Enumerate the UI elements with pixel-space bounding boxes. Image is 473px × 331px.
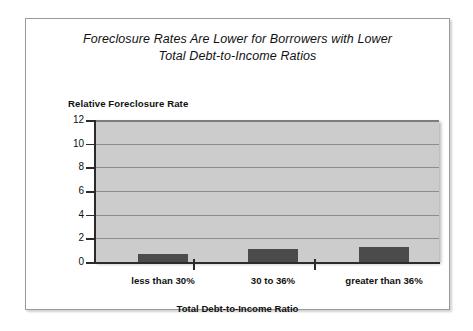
x-tick-divider-1 — [193, 259, 195, 270]
bar-30-to-36[interactable] — [248, 249, 298, 262]
y-tick-label-0: 0 — [62, 256, 84, 267]
x-category-label-less-than-30: less than 30% — [131, 275, 194, 286]
x-category-label-30-to-36: 30 to 36% — [251, 275, 295, 286]
y-tick-label-12: 12 — [62, 114, 84, 125]
x-tick-divider-2 — [314, 259, 316, 270]
y-tick-mark-12 — [86, 120, 95, 122]
y-tick-label-2: 2 — [62, 232, 84, 243]
y-tick-mark-4 — [86, 215, 95, 217]
x-category-label-greater-than-36: greater than 36% — [345, 275, 422, 286]
y-tick-label-6: 6 — [62, 185, 84, 196]
y-tick-label-4: 4 — [62, 209, 84, 220]
bar-less-than-30[interactable] — [138, 254, 188, 262]
chart-title-line-2: Total Debt-to-Income Ratios — [26, 48, 449, 65]
y-tick-label-8: 8 — [62, 161, 84, 172]
gridline-6 — [95, 191, 439, 192]
y-tick-mark-6 — [86, 191, 95, 193]
plot-background — [95, 120, 439, 262]
chart-figure-frame: Foreclosure Rates Are Lower for Borrower… — [25, 18, 450, 310]
chart-title: Foreclosure Rates Are Lower for Borrower… — [26, 31, 449, 65]
y-axis-title: Relative Foreclosure Rate — [68, 98, 188, 109]
gridline-2 — [95, 238, 439, 239]
gridline-8 — [95, 167, 439, 168]
y-tick-mark-8 — [86, 167, 95, 169]
gridline-4 — [95, 215, 439, 216]
plot-area-wrapper — [95, 120, 439, 262]
x-axis-title: Total Debt-to-Income Ratio — [26, 303, 449, 314]
bar-greater-than-36[interactable] — [359, 247, 409, 262]
y-tick-label-10: 10 — [62, 138, 84, 149]
chart-title-line-1: Foreclosure Rates Are Lower for Borrower… — [26, 31, 449, 48]
plot-top-edge — [95, 120, 439, 122]
y-tick-mark-2 — [86, 238, 95, 240]
y-tick-mark-10 — [86, 144, 95, 146]
gridline-10 — [95, 144, 439, 145]
x-axis-line — [94, 262, 440, 264]
